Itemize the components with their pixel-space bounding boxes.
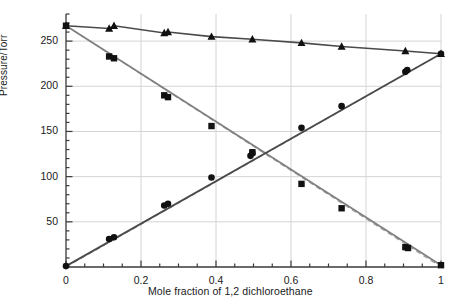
y-tick-label-200: 200: [26, 79, 58, 91]
x-tick-label-1: 1: [424, 274, 458, 286]
x-tick-label-0-6: 0.6: [274, 274, 308, 286]
x-tick-label-0-8: 0.8: [349, 274, 383, 286]
y-tick-label-250: 250: [26, 34, 58, 46]
x-tick-label-0-4: 0.4: [199, 274, 233, 286]
series-lines: [66, 26, 441, 266]
y-tick-label-50: 50: [26, 215, 58, 227]
x-tick-label-0: 0: [49, 274, 83, 286]
y-axis-label-wrapper: Pressure/Torr: [0, 0, 12, 96]
y-axis-label: Pressure/Torr: [0, 0, 9, 96]
chart-canvas: [0, 0, 469, 306]
pressure-composition-chart: Pressure/Torr Mole fraction of 1,2 dichl…: [0, 0, 469, 306]
x-axis-label: Mole fraction of 1,2 dichloroethane: [148, 285, 313, 297]
y-tick-label-100: 100: [26, 170, 58, 182]
y-tick-label-150: 150: [26, 124, 58, 136]
x-tick-label-0-2: 0.2: [124, 274, 158, 286]
